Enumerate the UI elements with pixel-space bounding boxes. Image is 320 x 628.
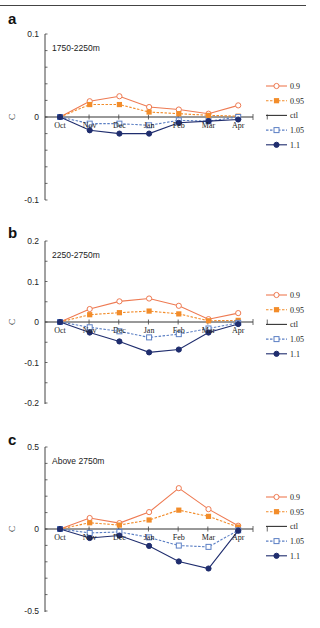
legend-label: 0.95	[290, 97, 304, 106]
legend: 0.90.95ctl1.051.1	[266, 493, 304, 561]
legend-item-ctl: ctl	[266, 111, 299, 120]
data-point	[117, 94, 122, 99]
y-tick-label: -0.5	[24, 606, 39, 616]
legend-item-0.9: 0.9	[266, 493, 300, 502]
series-0.9	[57, 486, 240, 532]
legend-label: 1.1	[290, 350, 300, 359]
data-point	[117, 102, 122, 107]
data-point	[206, 507, 211, 512]
x-tick-label: Mar	[202, 533, 216, 542]
x-tick-label: Mar	[202, 121, 216, 130]
data-point	[176, 543, 181, 548]
legend-marker	[274, 128, 279, 133]
data-point	[147, 510, 152, 515]
legend: 0.90.95ctl1.051.1	[266, 291, 304, 359]
x-tick-label: Apr	[232, 326, 245, 335]
data-point	[206, 514, 211, 519]
chart-panel-b: b0.20.10-0.1-0.2C2250-2750mOctNovDecJanF…	[0, 200, 320, 418]
legend-item-1.05: 1.05	[266, 537, 304, 546]
x-tick-label: Nov	[83, 121, 97, 130]
legend-item-0.95: 0.95	[266, 306, 304, 315]
data-point	[176, 111, 181, 116]
x-tick-label: Feb	[173, 121, 185, 130]
data-point	[176, 486, 181, 491]
legend-item-0.95: 0.95	[266, 508, 304, 517]
y-tick-label: 0	[34, 317, 39, 327]
data-point	[117, 339, 122, 344]
data-point	[206, 566, 211, 571]
x-tick-label: Apr	[232, 533, 245, 542]
data-point	[57, 114, 62, 119]
y-tick-label: 0	[34, 524, 39, 534]
data-point	[87, 520, 92, 525]
legend-marker	[274, 351, 279, 356]
data-point	[147, 308, 152, 313]
y-axis-label: C	[7, 526, 17, 532]
data-point	[87, 306, 92, 311]
data-point	[117, 310, 122, 315]
x-tick-label: Nov	[83, 533, 97, 542]
y-tick-label: 0.5	[27, 442, 39, 452]
data-point	[147, 104, 152, 109]
data-point	[87, 312, 92, 317]
legend-label: 1.1	[290, 141, 300, 150]
x-tick-label: Jan	[144, 121, 155, 130]
x-tick-label: Dec	[113, 121, 126, 130]
legend: 0.90.95ctl1.051.1	[266, 82, 304, 150]
legend-label: 1.05	[290, 537, 304, 546]
elevation-band-label: 1750-2250m	[52, 43, 100, 53]
data-point	[206, 544, 211, 549]
y-axis-label: C	[7, 114, 17, 120]
data-point	[147, 517, 152, 522]
legend-marker	[274, 553, 279, 558]
legend-item-ctl: ctl	[266, 522, 299, 531]
legend-item-1.1: 1.1	[266, 141, 300, 150]
legend-label: 0.9	[290, 291, 300, 300]
elevation-band-label: Above 2750m	[52, 456, 104, 466]
legend-item-0.9: 0.9	[266, 82, 300, 91]
x-tick-label: Dec	[113, 326, 126, 335]
legend-marker	[274, 509, 279, 514]
data-point	[147, 109, 152, 114]
data-point	[236, 103, 241, 108]
data-point	[176, 347, 181, 352]
legend-item-1.05: 1.05	[266, 126, 304, 135]
data-point	[117, 299, 122, 304]
y-tick-label: 0.1	[27, 29, 39, 39]
legend-label: ctl	[290, 320, 299, 329]
data-point	[147, 335, 152, 340]
x-tick-label: Oct	[54, 121, 66, 130]
x-tick-label: Oct	[54, 533, 66, 542]
data-point	[57, 319, 62, 324]
data-point	[206, 318, 211, 323]
legend-label: ctl	[290, 111, 299, 120]
legend-label: 0.95	[290, 508, 304, 517]
y-tick-label: 0	[34, 112, 39, 122]
x-tick-label: Nov	[83, 326, 97, 335]
data-point	[206, 113, 211, 118]
legend-label: 0.9	[290, 82, 300, 91]
data-point	[176, 559, 181, 564]
legend-marker	[274, 337, 279, 342]
legend-label: 1.05	[290, 126, 304, 135]
data-point	[87, 102, 92, 107]
data-point	[176, 303, 181, 308]
y-tick-label: 0.1	[27, 277, 39, 287]
data-point	[117, 522, 122, 527]
legend-marker	[274, 142, 279, 147]
legend-item-1.05: 1.05	[266, 335, 304, 344]
x-tick-label: Feb	[173, 533, 185, 542]
x-tick-label: Oct	[54, 326, 66, 335]
chart-panel-a: a0.10-0.1C1750-2250mOctNovDecJanFebMarAp…	[0, 0, 320, 218]
data-point	[57, 526, 62, 531]
legend-item-ctl: ctl	[266, 320, 299, 329]
x-tick-label: Apr	[232, 121, 245, 130]
y-tick-label: -0.2	[24, 398, 39, 408]
y-tick-label: -0.1	[24, 358, 39, 368]
panel-letter: c	[8, 431, 16, 448]
x-tick-label: Mar	[202, 326, 216, 335]
x-tick-label: Jan	[144, 326, 155, 335]
x-tick-label: Feb	[173, 326, 185, 335]
legend-marker	[274, 83, 279, 88]
legend-item-0.95: 0.95	[266, 97, 304, 106]
